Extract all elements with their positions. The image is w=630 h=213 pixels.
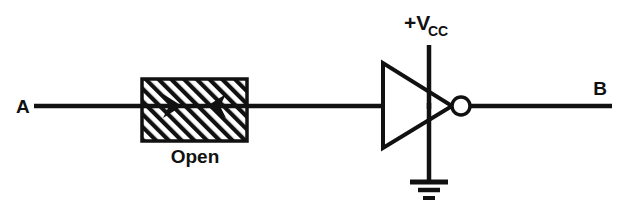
input-terminal-label: A bbox=[16, 96, 30, 117]
inverter-bubble-icon bbox=[452, 97, 470, 115]
open-fault-box bbox=[142, 79, 247, 141]
vcc-label: +V bbox=[404, 11, 430, 34]
open-fault-label: Open bbox=[171, 146, 220, 167]
output-terminal-label: B bbox=[593, 78, 607, 99]
circuit-canvas: A B Open +V CC bbox=[0, 0, 630, 213]
circuit-diagram: A B Open +V CC bbox=[0, 0, 630, 213]
vcc-subscript-label: CC bbox=[428, 23, 448, 39]
